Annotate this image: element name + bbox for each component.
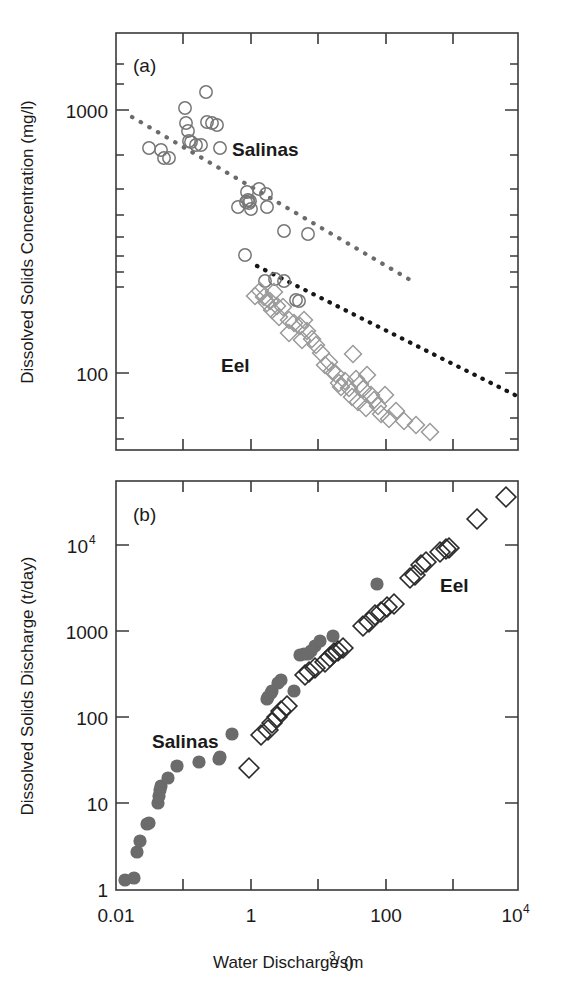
panel-b-tag: (b) — [133, 504, 156, 525]
panel-b-salinas-label: Salinas — [152, 731, 219, 752]
panel-a-ytick-1000: 1000 — [66, 101, 108, 122]
panel-a-ytick-100: 100 — [76, 364, 108, 385]
panel-b-xtick-3: 10 4 — [501, 902, 530, 926]
panel-b-ytick-10: 10 — [87, 794, 108, 815]
panel-a-salinas-label: Salinas — [232, 139, 299, 160]
panel-b-ytick-100: 100 — [76, 708, 108, 729]
panel-a: 1000 100 (a) Dissolved Solids Concentrat… — [18, 33, 519, 450]
panel-b-xtick-3-exp: 4 — [523, 902, 530, 916]
scatter-figure: 1000 100 (a) Dissolved Solids Concentrat… — [0, 0, 561, 993]
panel-b-xtick-1: 1 — [246, 905, 257, 926]
panel-b-ytick-1000: 1000 — [66, 622, 108, 643]
panel-b-xtick-3-base: 10 — [501, 905, 522, 926]
panel-a-plot-frame — [116, 33, 518, 450]
panel-a-tag: (a) — [133, 55, 156, 76]
panel-b-ytick-1: 1 — [97, 880, 108, 901]
panel-b-ytick-10k-exp: 4 — [89, 533, 96, 547]
panel-b-xtick-2: 100 — [370, 905, 402, 926]
panel-b-ytick-10k: 10 4 — [67, 533, 96, 557]
panel-a-eel-label: Eel — [221, 355, 250, 376]
panel-a-y-axis-label: Dissolved Solids Concentration (mg/l) — [18, 100, 37, 383]
x-axis-label-tail: /s) — [335, 953, 354, 972]
panel-b-eel-label: Eel — [440, 575, 469, 596]
panel-b-y-axis-label: Dissolved Solids Discharge (t/day) — [18, 557, 37, 816]
panel-b-plot-frame — [116, 481, 518, 890]
panel-b: 10 4 1000 100 10 1 (b) Dissolved Solids … — [18, 481, 530, 972]
panel-b-xtick-0: 0.01 — [98, 905, 135, 926]
x-axis-label: Water Discharge (m 3 /s) — [213, 949, 364, 972]
figure-container: 1000 100 (a) Dissolved Solids Concentrat… — [0, 0, 561, 993]
panel-b-ytick-10k-base: 10 — [67, 536, 88, 557]
